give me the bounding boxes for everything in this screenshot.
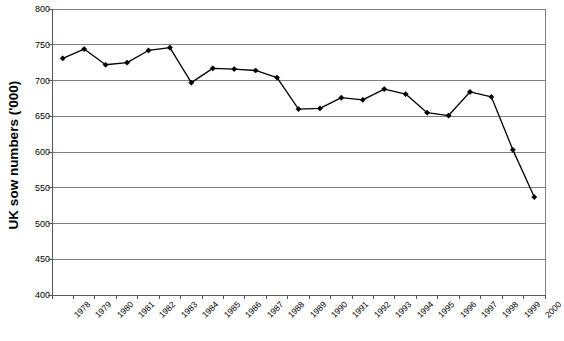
data-point-1991 <box>339 95 344 100</box>
x-axis-ticks <box>52 295 545 299</box>
data-point-1993 <box>382 86 387 91</box>
data-point-markers <box>60 45 537 200</box>
gridlines <box>52 9 545 295</box>
data-point-1987 <box>253 68 258 73</box>
data-point-2000 <box>532 194 537 199</box>
data-series-line <box>63 48 535 197</box>
data-point-1998 <box>489 94 494 99</box>
data-point-1990 <box>317 106 322 111</box>
data-point-1986 <box>232 66 237 71</box>
data-point-1982 <box>146 48 151 53</box>
data-point-1981 <box>124 60 129 65</box>
data-point-1992 <box>360 97 365 102</box>
data-point-1978 <box>60 56 65 61</box>
y-axis-ticks <box>48 9 52 295</box>
